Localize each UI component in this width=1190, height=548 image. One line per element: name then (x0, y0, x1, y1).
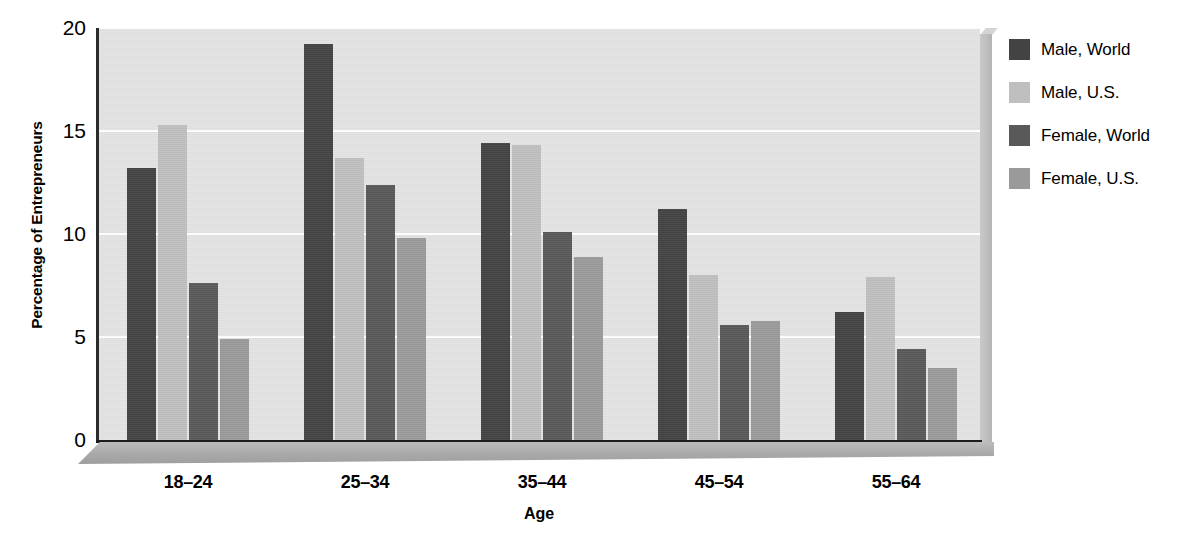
y-axis-tick-label: 5 (44, 326, 86, 347)
legend: Male, WorldMale, U.S.Female, WorldFemale… (1009, 28, 1189, 200)
bar (127, 168, 156, 440)
y-axis-tick-label: 0 (44, 429, 86, 450)
bar-chart-figure: Percentage of Entrepreneurs 05101520 18–… (0, 0, 1190, 548)
bar (335, 158, 364, 440)
bar (543, 232, 572, 440)
plot-3d-side-panel (980, 34, 992, 446)
gridline (98, 130, 980, 132)
legend-label: Male, World (1041, 40, 1130, 60)
legend-item: Male, U.S. (1009, 71, 1189, 114)
legend-swatch-icon (1009, 39, 1030, 60)
bar (751, 321, 780, 440)
bar (366, 185, 395, 440)
legend-item: Male, World (1009, 28, 1189, 71)
x-axis-tick-label: 55–64 (836, 472, 956, 493)
legend-item: Female, U.S. (1009, 157, 1189, 200)
bar (481, 143, 510, 440)
bar (835, 312, 864, 440)
bar (304, 44, 333, 440)
legend-label: Male, U.S. (1041, 83, 1119, 103)
bar (689, 275, 718, 440)
y-axis-tick-label: 15 (44, 120, 86, 141)
legend-swatch-icon (1009, 82, 1030, 103)
x-axis-tick-label: 18–24 (128, 472, 248, 493)
chart-floor-slab (78, 442, 994, 464)
bar (928, 368, 957, 440)
legend-swatch-icon (1009, 125, 1030, 146)
bar (574, 257, 603, 440)
bar (658, 209, 687, 440)
x-axis-tick-label: 25–34 (305, 472, 425, 493)
gridline (98, 27, 980, 29)
bar (512, 145, 541, 440)
bar (158, 125, 187, 440)
bar (897, 349, 926, 440)
legend-label: Female, U.S. (1041, 169, 1139, 189)
plot-area (98, 28, 980, 440)
x-axis-tick-label: 45–54 (659, 472, 779, 493)
legend-swatch-icon (1009, 168, 1030, 189)
bar (189, 283, 218, 440)
legend-label: Female, World (1041, 126, 1150, 146)
y-axis-tick-label: 10 (44, 223, 86, 244)
bar (720, 325, 749, 440)
bar (220, 339, 249, 440)
y-axis-line (96, 28, 99, 442)
x-axis-title: Age (98, 505, 980, 523)
bar (397, 238, 426, 440)
x-axis-tick-label: 35–44 (482, 472, 602, 493)
legend-item: Female, World (1009, 114, 1189, 157)
y-axis-tick-label: 20 (44, 17, 86, 38)
y-axis-tick-labels: 05101520 (36, 0, 86, 548)
bar (866, 277, 895, 440)
